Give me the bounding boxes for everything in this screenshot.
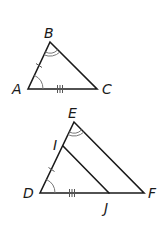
angle-arc-b-inner [45,50,58,53]
angle-arc-d [47,180,56,194]
label-b: B [44,25,54,41]
triangle-abc [28,42,97,93]
label-i: I [53,137,57,153]
label-e: E [68,105,77,121]
label-c: C [102,81,112,97]
label-j: J [101,200,108,216]
label-a: A [11,81,22,97]
triangle-def-outline [40,122,144,193]
label-f: F [148,185,157,201]
triangle-def [40,122,144,197]
label-d: D [23,185,34,201]
angle-arc-e-inner [69,130,82,133]
segment-ij [63,146,109,193]
angle-arc-a [34,75,43,89]
geometry-figure: B A C E I D F J [0,0,165,230]
